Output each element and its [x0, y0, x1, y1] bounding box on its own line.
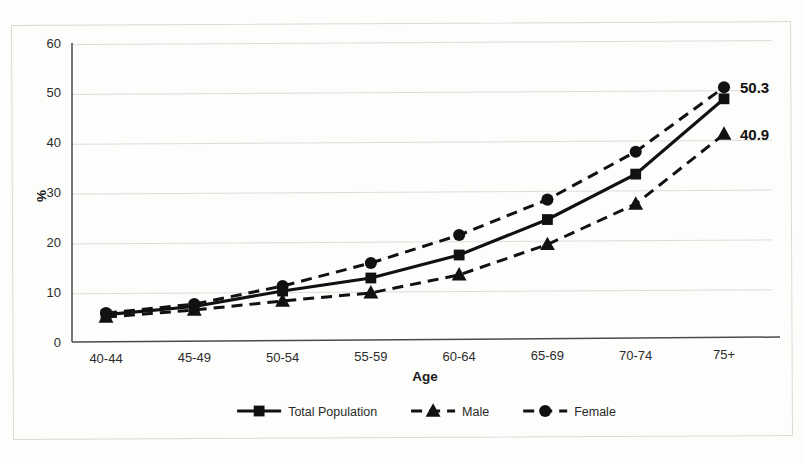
x-tick-label: 70-74 — [619, 348, 652, 363]
x-axis-line — [72, 337, 780, 342]
x-tick-label: 50-54 — [266, 350, 299, 365]
data-label-male: 40.9 — [740, 126, 769, 143]
data-label-group: 50.340.9 — [740, 79, 769, 143]
circle-marker — [453, 229, 465, 241]
legend-item-female[interactable]: Female — [523, 405, 616, 419]
circle-marker — [365, 257, 377, 269]
circle-marker — [100, 307, 112, 319]
triangle-marker — [628, 196, 643, 209]
gridline — [72, 190, 772, 194]
plot-series-group — [99, 81, 732, 322]
x-tick-label: 45-49 — [178, 350, 211, 365]
x-tick-label: 75+ — [713, 347, 735, 362]
chart-legend: Total PopulationMaleFemale — [237, 403, 616, 418]
circle-marker — [541, 194, 553, 206]
series-line-female — [106, 87, 724, 313]
legend-label: Male — [462, 405, 489, 419]
gridline — [72, 90, 772, 94]
y-axis-title: % — [34, 190, 49, 202]
square-marker — [454, 250, 465, 261]
x-tick-label: 60-64 — [443, 349, 476, 364]
gridline — [72, 240, 772, 244]
square-marker — [542, 214, 553, 225]
x-axis-title: Age — [412, 369, 438, 384]
series-line-male — [106, 134, 724, 317]
gridlines — [72, 41, 772, 294]
legend-label: Female — [574, 405, 616, 419]
square-marker — [719, 93, 730, 104]
gridline — [72, 290, 772, 294]
triangle-marker — [717, 126, 732, 139]
circle-marker — [188, 298, 200, 310]
circle-marker — [718, 81, 730, 93]
y-tick-label: 40 — [47, 135, 61, 150]
y-tick-label: 10 — [47, 285, 61, 300]
circle-marker — [630, 146, 642, 158]
circle-marker — [277, 280, 289, 292]
x-tick-label: 40-44 — [89, 351, 122, 366]
legend-item-total-population[interactable]: Total Population — [237, 405, 377, 419]
x-tick-label: 55-59 — [354, 349, 387, 364]
square-marker — [254, 406, 265, 417]
data-label-female: 50.3 — [740, 79, 769, 96]
legend-label: Total Population — [288, 405, 377, 419]
y-tick-label: 60 — [47, 36, 61, 51]
y-tick-label: 50 — [47, 85, 61, 100]
y-tick-label: 20 — [47, 235, 61, 250]
x-tick-label: 65-69 — [531, 348, 564, 363]
square-marker — [630, 169, 641, 180]
gridline — [72, 41, 772, 45]
y-tick-label: 0 — [54, 335, 61, 350]
line-chart: 0102030405060 40-4445-4950-5455-5960-646… — [0, 0, 805, 463]
x-axis-ticks: 40-4445-4950-5455-5960-6465-6970-7475+ — [89, 347, 735, 366]
gridline — [72, 140, 772, 144]
square-marker — [365, 273, 376, 284]
legend-item-male[interactable]: Male — [411, 403, 489, 418]
circle-marker — [539, 405, 551, 417]
